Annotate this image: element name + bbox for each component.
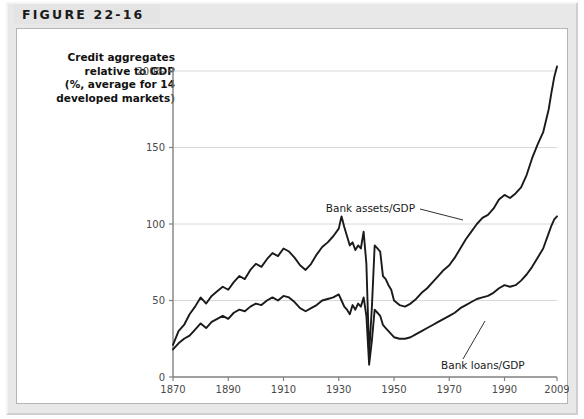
annotation-bank-assets-leader: [420, 209, 463, 220]
x-axis-tick-labels: 18701890191019301950197019902009: [160, 377, 569, 395]
x-tick-label-1870: 1870: [160, 384, 185, 395]
chart-panel: Credit aggregates relative to GDP (%, av…: [16, 28, 568, 404]
figure-number-tab: FIGURE 22-16: [14, 4, 160, 24]
x-tick-label-1890: 1890: [216, 384, 241, 395]
x-tick-label-1930: 1930: [326, 384, 351, 395]
plot-area: 050100150200% 18701890191019301950197019…: [17, 29, 569, 405]
x-tick-label-1970: 1970: [437, 384, 462, 395]
x-tick-label-1990: 1990: [492, 384, 517, 395]
x-tick-label-2009: 2009: [544, 384, 569, 395]
figure-container: FIGURE 22-16 Credit aggregates relative …: [0, 0, 584, 419]
figure-number-label: FIGURE 22-16: [22, 7, 145, 22]
axis-lines: [173, 67, 557, 377]
y-tick-label-50: 50: [152, 295, 165, 306]
gridlines: [173, 71, 557, 301]
series-annotations: Bank assets/GDPBank loans/GDP: [326, 202, 525, 371]
y-tick-label-200: 200%: [136, 66, 165, 77]
y-tick-label-0: 0: [159, 372, 165, 383]
annotation-bank-loans-leader: [463, 321, 485, 359]
y-tick-label-150: 150: [146, 142, 165, 153]
y-axis-tick-labels: 050100150200%: [136, 66, 173, 383]
annotation-bank-loans-label: Bank loans/GDP: [441, 359, 525, 371]
x-tick-label-1910: 1910: [271, 384, 296, 395]
y-tick-label-100: 100: [146, 219, 165, 230]
data-series: [173, 66, 557, 364]
annotation-bank-assets-label: Bank assets/GDP: [326, 202, 415, 214]
x-tick-label-1950: 1950: [381, 384, 406, 395]
line-chart-svg: 050100150200% 18701890191019301950197019…: [17, 29, 569, 405]
